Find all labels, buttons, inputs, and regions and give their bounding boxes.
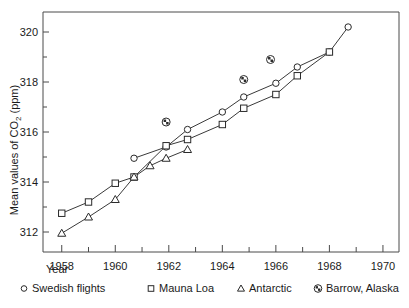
series-markers xyxy=(58,24,352,236)
marker-square xyxy=(219,121,225,127)
series-markers-1 xyxy=(59,49,333,217)
legend-item-0: Swedish flights xyxy=(21,282,106,294)
marker-square xyxy=(294,73,300,79)
marker-circle xyxy=(345,24,351,30)
series-line-0 xyxy=(134,27,348,158)
marker-square xyxy=(59,210,65,216)
marker-square xyxy=(163,143,169,149)
series-line-1 xyxy=(62,52,330,213)
plot-axes-frame xyxy=(43,12,399,252)
marker-square xyxy=(326,49,332,55)
y-axis-title: Mean values of CO2 (ppm) xyxy=(8,85,23,215)
x-axis-title: Year xyxy=(46,263,69,275)
marker-circle xyxy=(219,109,225,115)
marker-triangle xyxy=(238,285,245,291)
marker-triangle xyxy=(146,162,154,169)
series-line-2 xyxy=(62,150,188,234)
marker-square xyxy=(273,91,279,97)
y-tick-label: 318 xyxy=(20,76,38,88)
x-axis-ticks xyxy=(62,245,383,252)
marker-triangle xyxy=(58,229,66,236)
marker-circle xyxy=(21,286,27,292)
x-tick-label: 1970 xyxy=(371,260,395,272)
x-tick-label: 1966 xyxy=(264,260,288,272)
marker-circle xyxy=(131,155,137,161)
marker-crossed-circle xyxy=(314,285,322,293)
marker-crossed-circle xyxy=(162,118,170,126)
legend-item-2: Antarctic xyxy=(238,282,293,294)
chart-canvas: 312314316318320 195819601962196419661968… xyxy=(0,0,409,308)
co2-chart-figure: 312314316318320 195819601962196419661968… xyxy=(0,0,409,308)
y-tick-label: 312 xyxy=(20,226,38,238)
marker-circle xyxy=(273,80,279,86)
marker-square xyxy=(241,105,247,111)
marker-triangle xyxy=(184,146,192,153)
legend-item-1: Mauna Loa xyxy=(148,282,215,294)
marker-triangle xyxy=(162,154,170,161)
y-tick-label: 316 xyxy=(20,126,38,138)
legend-label: Mauna Loa xyxy=(159,282,215,294)
marker-circle xyxy=(294,64,300,70)
marker-square xyxy=(112,180,118,186)
x-tick-label: 1968 xyxy=(317,260,341,272)
marker-circle xyxy=(184,126,190,132)
marker-circle xyxy=(241,94,247,100)
y-axis-tick-labels: 312314316318320 xyxy=(20,26,38,238)
y-tick-label: 314 xyxy=(20,176,38,188)
marker-crossed-circle xyxy=(267,56,275,64)
x-axis-tick-labels: 1958196019621964196619681970 xyxy=(49,260,395,272)
series-markers-0 xyxy=(131,24,352,162)
y-axis-ticks xyxy=(43,32,49,232)
chart-legend: Swedish flightsMauna LoaAntarcticBarrow,… xyxy=(21,282,399,294)
legend-label: Swedish flights xyxy=(32,282,106,294)
marker-square xyxy=(85,199,91,205)
x-tick-label: 1960 xyxy=(103,260,127,272)
marker-square xyxy=(184,136,190,142)
legend-label: Barrow, Alaska xyxy=(326,282,400,294)
x-tick-label: 1964 xyxy=(210,260,234,272)
legend-item-3: Barrow, Alaska xyxy=(314,282,399,294)
marker-crossed-circle xyxy=(240,76,248,84)
marker-square xyxy=(148,286,154,292)
y-tick-label: 320 xyxy=(20,26,38,38)
marker-triangle xyxy=(85,213,93,220)
legend-label: Antarctic xyxy=(249,282,292,294)
series-markers-2 xyxy=(58,146,192,237)
x-tick-label: 1962 xyxy=(157,260,181,272)
series-lines xyxy=(62,27,348,233)
